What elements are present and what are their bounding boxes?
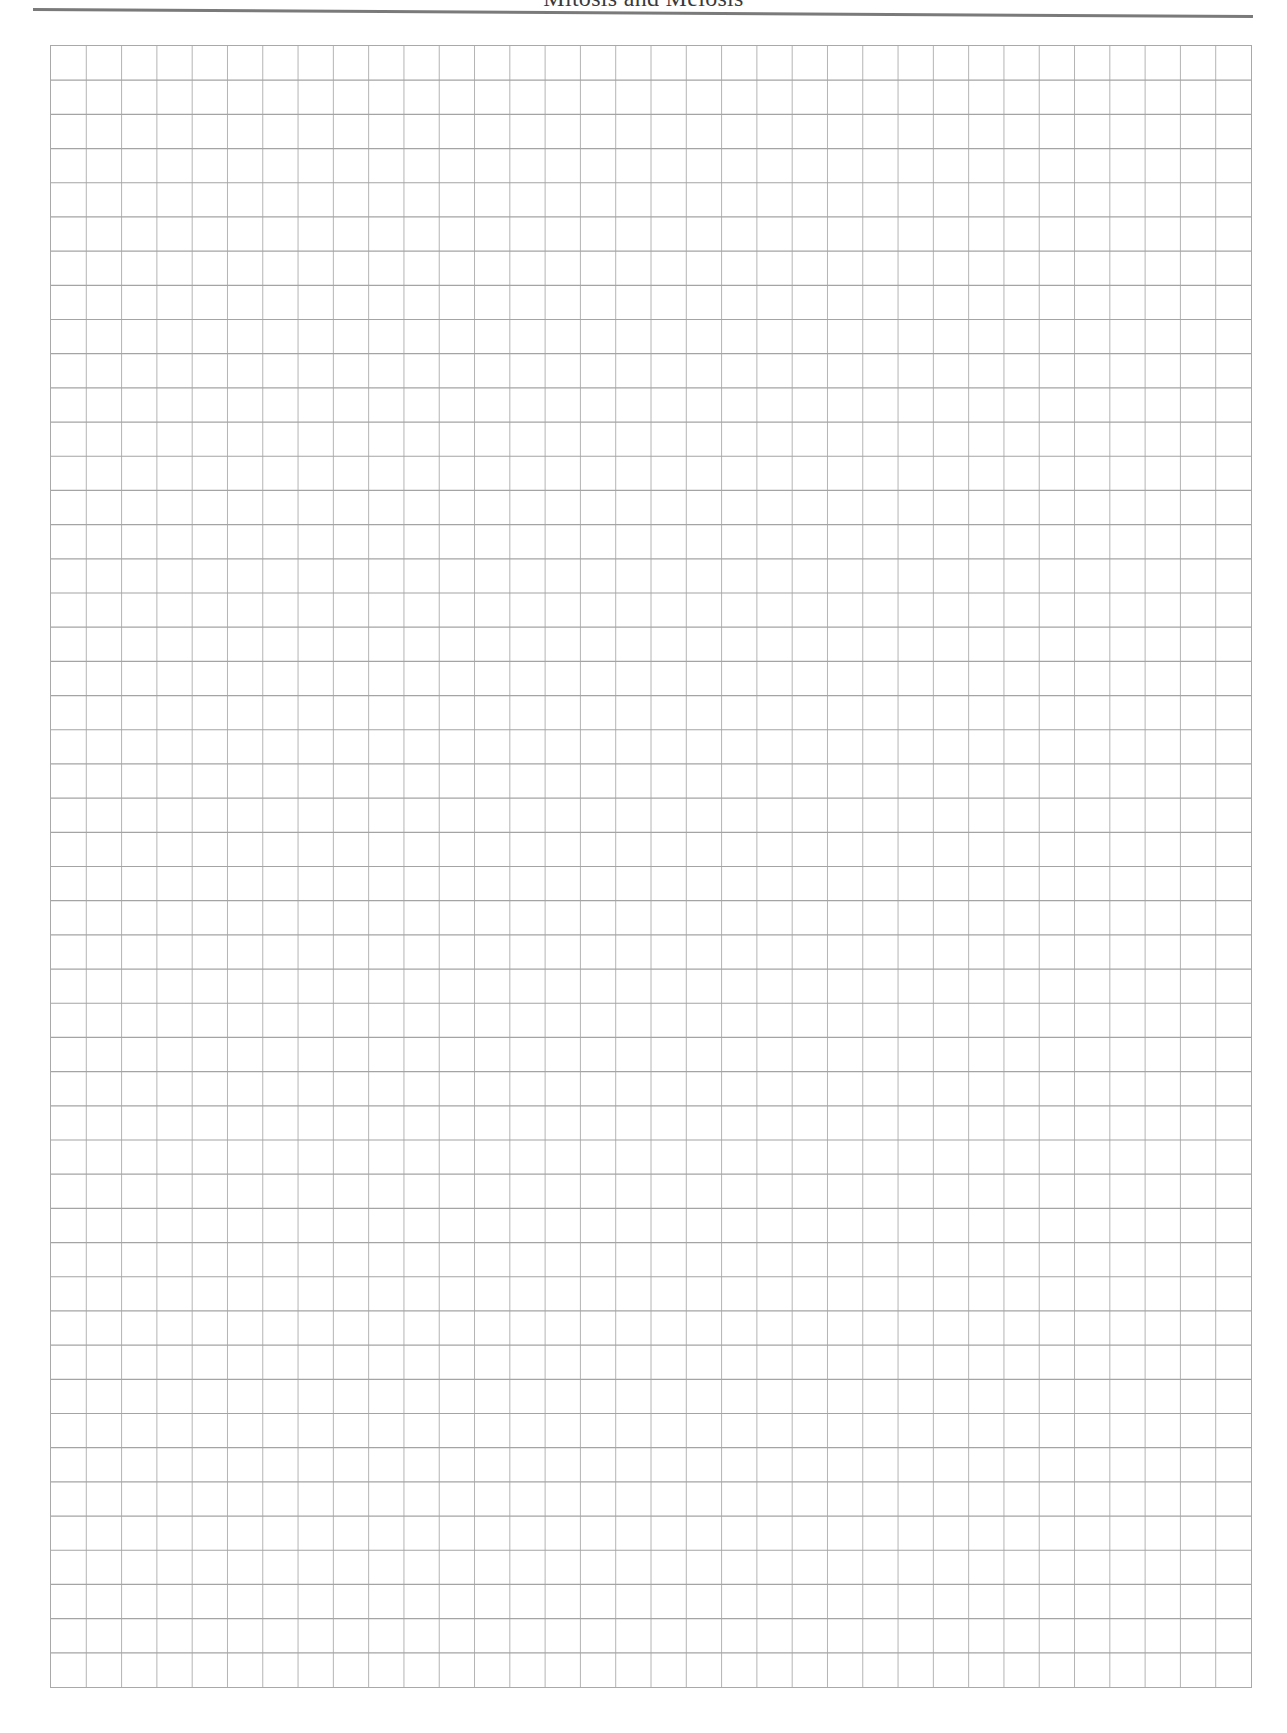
- graph-paper-grid: [50, 45, 1252, 1688]
- grid-lines: [51, 46, 1251, 1687]
